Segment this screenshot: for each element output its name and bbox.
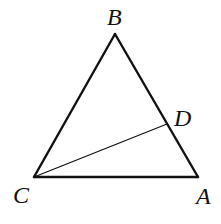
label-c: C [13,182,30,208]
label-a: A [194,183,211,209]
label-d: D [173,105,191,131]
edge-bc [34,34,115,177]
triangle-diagram: B C A D [0,0,221,224]
segment-cd [34,124,167,177]
label-b: B [107,4,122,30]
